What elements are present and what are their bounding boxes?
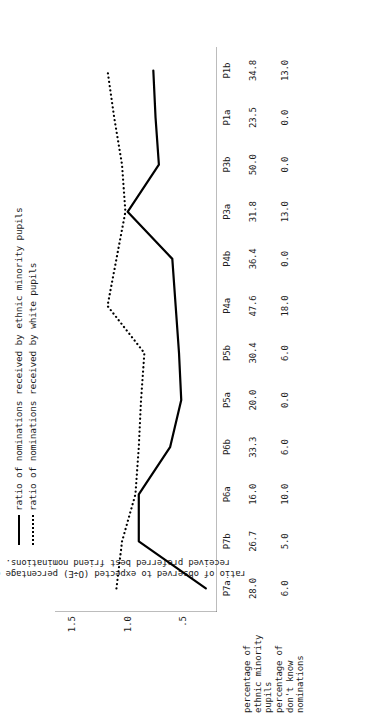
value-row-ethnic-minority: 28.026.716.033.320.030.447.636.431.850.0…: [248, 47, 262, 612]
ethnic-minority-percentage-value: 50.0: [248, 154, 258, 175]
ethnic-minority-percentage-value: 16.0: [248, 484, 258, 505]
dont-know-percentage-value: 6.0: [280, 345, 290, 361]
category-label: P4a: [222, 298, 232, 314]
category-label-row: P7aP7bP6aP6bP5aP5bP4aP4bP3aP3bP1aP1b: [222, 47, 236, 612]
ethnic-minority-percentage-value: 23.5: [248, 107, 258, 128]
legend-label-white: ratio of nominations received by white p…: [26, 263, 40, 511]
dotted-line-icon: [32, 511, 34, 545]
ethnic-minority-percentage-value: 36.4: [248, 248, 258, 269]
ethnic-minority-percentage-value: 31.8: [248, 201, 258, 222]
dont-know-percentage-value: 5.0: [280, 534, 290, 550]
value-tick-label: .5: [178, 616, 188, 627]
category-label: P1a: [222, 110, 232, 126]
category-label: P7a: [222, 581, 232, 597]
dont-know-percentage-value: 13.0: [280, 201, 290, 222]
category-label: P6a: [222, 486, 232, 502]
dont-know-percentage-value: 0.0: [280, 157, 290, 173]
plot-svg: [55, 47, 217, 612]
value-row-dont-know: 6.05.010.06.00.06.018.00.013.00.00.013.0: [280, 47, 294, 612]
ethnic-minority-percentage-value: 33.3: [248, 437, 258, 458]
dont-know-percentage-value: 0.0: [280, 392, 290, 408]
dont-know-percentage-value: 0.0: [280, 251, 290, 267]
category-label: P7b: [222, 534, 232, 550]
legend-label-ethnic-minority: ratio of nominations received by ethnic …: [12, 207, 26, 511]
value-tick-label: 1.0: [123, 616, 133, 632]
plot-area: ratio of observed to expected (O÷E) perc…: [55, 47, 217, 612]
category-label: P3a: [222, 204, 232, 220]
category-label: P5a: [222, 392, 232, 408]
dont-know-percentage-value: 10.0: [280, 484, 290, 505]
dont-know-percentage-value: 0.0: [280, 110, 290, 126]
dont-know-percentage-value: 6.0: [280, 581, 290, 597]
chart-screenshot: ratio of nominations received by ethnic …: [0, 0, 373, 715]
category-label: P5b: [222, 345, 232, 361]
legend-item-ethnic-minority: ratio of nominations received by ethnic …: [12, 125, 26, 545]
value-tick-label: 1.5: [67, 616, 77, 632]
series-line-ethnic-minority: [128, 71, 206, 589]
category-label: P4b: [222, 251, 232, 267]
category-label: P6b: [222, 439, 232, 455]
ethnic-minority-percentage-value: 28.0: [248, 578, 258, 599]
ethnic-minority-percentage-value: 34.8: [248, 60, 258, 81]
axis-group: [55, 47, 217, 612]
ethnic-minority-percentage-value: 20.0: [248, 390, 258, 411]
dont-know-percentage-value: 18.0: [280, 296, 290, 317]
row-header-ethnic-minority: percentage of ethnic minority pupils: [242, 613, 274, 713]
data-table: P7aP7bP6aP6bP5aP5bP4aP4bP3aP3bP1aP1b per…: [222, 0, 367, 715]
rotated-figure: ratio of nominations received by ethnic …: [0, 0, 373, 715]
category-label: P1b: [222, 63, 232, 79]
ethnic-minority-percentage-value: 26.7: [248, 531, 258, 552]
row-header-dont-know: percentage of don't know nominations: [274, 613, 306, 713]
legend-item-white: ratio of nominations received by white p…: [26, 125, 40, 545]
solid-line-icon: [18, 511, 20, 545]
ethnic-minority-percentage-value: 30.4: [248, 343, 258, 364]
ethnic-minority-percentage-value: 47.6: [248, 296, 258, 317]
series-group: [108, 71, 206, 589]
legend: ratio of nominations received by ethnic …: [12, 125, 40, 545]
category-label: P3b: [222, 157, 232, 173]
dont-know-percentage-value: 13.0: [280, 60, 290, 81]
dont-know-percentage-value: 6.0: [280, 439, 290, 455]
